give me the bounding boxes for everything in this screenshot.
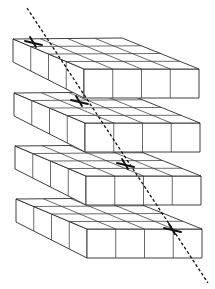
top-grid-line [51, 161, 163, 162]
top-grid-line [49, 54, 161, 55]
top-grid-line [52, 214, 164, 215]
stacked-slabs-diagram: Four stacked slabs, each a 4x4 grid of c… [0, 0, 215, 289]
slab-2 [14, 92, 200, 152]
slab-4 [16, 198, 202, 258]
top-grid-line [50, 108, 162, 109]
slab-1 [13, 38, 199, 98]
slab-3 [15, 145, 201, 205]
diagram-canvas [0, 0, 215, 289]
